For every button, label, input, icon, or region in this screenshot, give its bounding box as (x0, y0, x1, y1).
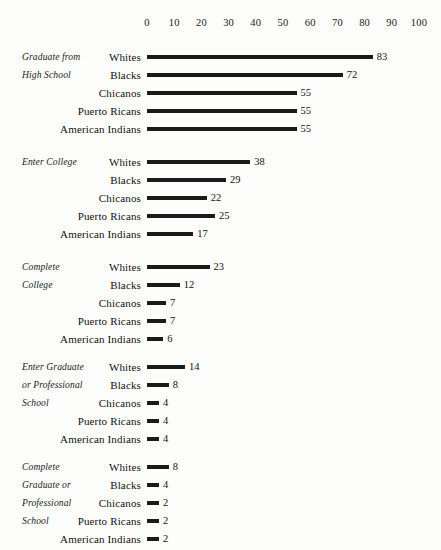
chart-group: Enter CollegeWhites38Blacks29Chicanos22P… (0, 153, 441, 243)
chart-row: Blacks8 (0, 376, 441, 394)
bar-value-label: 7 (170, 312, 175, 330)
bar (147, 501, 159, 505)
chart-row: Whites23 (0, 258, 441, 276)
chart-row: Blacks72 (0, 66, 441, 84)
bar (147, 109, 297, 113)
category-label: Whites (0, 153, 141, 171)
bar-value-label: 25 (219, 207, 230, 225)
chart-row: American Indians4 (0, 430, 441, 448)
bar (147, 301, 166, 305)
chart-row: American Indians55 (0, 120, 441, 138)
chart-group: CompleteCollegeWhites23Blacks12Chicanos7… (0, 258, 441, 348)
chart-row: Puerto Ricans4 (0, 412, 441, 430)
chart-row: Puerto Ricans25 (0, 207, 441, 225)
bar (147, 319, 166, 323)
category-label: Whites (0, 48, 141, 66)
chart-row: American Indians17 (0, 225, 441, 243)
chart-row: Chicanos7 (0, 294, 441, 312)
bar-value-label: 6 (167, 330, 172, 348)
chart-row: American Indians6 (0, 330, 441, 348)
category-label: Blacks (0, 376, 141, 394)
bar (147, 537, 159, 541)
x-axis-tick: 90 (386, 17, 397, 28)
chart-row: Whites14 (0, 358, 441, 376)
chart-row: Blacks4 (0, 476, 441, 494)
x-axis-tick: 70 (332, 17, 343, 28)
x-axis-tick: 10 (169, 17, 180, 28)
chart-row: Chicanos22 (0, 189, 441, 207)
x-axis-tick: 40 (250, 17, 261, 28)
chart-row: Puerto Ricans2 (0, 512, 441, 530)
bar-value-label: 55 (301, 102, 312, 120)
category-label: Blacks (0, 476, 141, 494)
category-label: Chicanos (0, 189, 141, 207)
x-axis-tick: 100 (411, 17, 427, 28)
chart-row: Whites83 (0, 48, 441, 66)
chart-row: Chicanos55 (0, 84, 441, 102)
bar (147, 437, 159, 441)
bar-value-label: 55 (301, 84, 312, 102)
bar-value-label: 2 (163, 530, 168, 548)
category-label: Blacks (0, 171, 141, 189)
category-label: Puerto Ricans (0, 207, 141, 225)
bar-value-label: 55 (301, 120, 312, 138)
chart-group: Graduate fromHigh SchoolWhites83Blacks72… (0, 48, 441, 138)
category-label: Blacks (0, 276, 141, 294)
bar (147, 127, 297, 131)
bar (147, 383, 169, 387)
bar-value-label: 83 (377, 48, 388, 66)
chart-row: Chicanos2 (0, 494, 441, 512)
chart-row: Blacks12 (0, 276, 441, 294)
x-axis-tick: 0 (144, 17, 149, 28)
bar (147, 160, 250, 164)
bar (147, 196, 207, 200)
x-axis: 0102030405060708090100 (0, 17, 441, 33)
category-label: Chicanos (0, 84, 141, 102)
bar (147, 214, 215, 218)
bar-value-label: 22 (211, 189, 222, 207)
bar (147, 519, 159, 523)
bar-value-label: 14 (189, 358, 200, 376)
bar-value-label: 12 (184, 276, 195, 294)
bar (147, 178, 226, 182)
category-label: Puerto Ricans (0, 412, 141, 430)
chart-row: Whites38 (0, 153, 441, 171)
bar (147, 232, 193, 236)
x-axis-tick: 50 (278, 17, 289, 28)
category-label: American Indians (0, 120, 141, 138)
bar-value-label: 4 (163, 476, 168, 494)
category-label: Chicanos (0, 294, 141, 312)
bar (147, 465, 169, 469)
bar-value-label: 7 (170, 294, 175, 312)
chart-group: Enter Graduateor ProfessionalSchoolWhite… (0, 358, 441, 448)
category-label: Puerto Ricans (0, 102, 141, 120)
chart-row: Puerto Ricans7 (0, 312, 441, 330)
bar-value-label: 23 (214, 258, 225, 276)
category-label: Blacks (0, 66, 141, 84)
chart-row: Puerto Ricans55 (0, 102, 441, 120)
bar (147, 337, 163, 341)
bar (147, 265, 210, 269)
category-label: Chicanos (0, 494, 141, 512)
bar (147, 483, 159, 487)
category-label: American Indians (0, 225, 141, 243)
bar-value-label: 4 (163, 412, 168, 430)
bar-value-label: 2 (163, 512, 168, 530)
bar (147, 365, 185, 369)
bar-value-label: 2 (163, 494, 168, 512)
category-label: American Indians (0, 430, 141, 448)
chart-row: Whites8 (0, 458, 441, 476)
chart-row: Blacks29 (0, 171, 441, 189)
bar (147, 73, 343, 77)
bar (147, 419, 159, 423)
category-label: Puerto Ricans (0, 512, 141, 530)
x-axis-tick: 80 (359, 17, 370, 28)
category-label: Puerto Ricans (0, 312, 141, 330)
x-axis-tick: 30 (223, 17, 234, 28)
category-label: American Indians (0, 530, 141, 548)
bar-value-label: 4 (163, 394, 168, 412)
bar (147, 283, 180, 287)
bar (147, 401, 159, 405)
x-axis-tick: 20 (196, 17, 207, 28)
bar-value-label: 8 (173, 376, 178, 394)
